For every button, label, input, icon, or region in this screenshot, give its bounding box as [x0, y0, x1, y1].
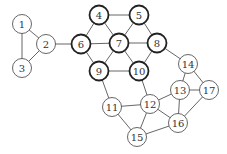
node-label: 4 [96, 10, 102, 21]
node-5: 5 [130, 6, 149, 25]
node-label: 17 [203, 85, 216, 96]
node-3: 3 [13, 59, 32, 78]
node-label: 1 [19, 19, 25, 30]
node-label: 14 [182, 59, 195, 70]
nodes-layer: 1234567891011121314151617 [13, 6, 219, 147]
node-label: 3 [19, 63, 25, 74]
node-label: 15 [131, 132, 144, 143]
node-label: 11 [106, 102, 119, 113]
node-12: 12 [141, 95, 160, 114]
node-label: 12 [144, 99, 157, 110]
node-17: 17 [200, 81, 219, 100]
graph-diagram: 1234567891011121314151617 [0, 0, 227, 154]
node-label: 2 [43, 39, 49, 50]
node-label: 7 [116, 38, 122, 49]
node-6: 6 [72, 35, 91, 54]
node-1: 1 [13, 15, 32, 34]
node-label: 8 [154, 38, 160, 49]
node-8: 8 [148, 34, 167, 53]
node-13: 13 [171, 81, 190, 100]
node-10: 10 [130, 62, 149, 81]
node-7: 7 [110, 34, 129, 53]
node-label: 9 [96, 66, 102, 77]
node-9: 9 [90, 62, 109, 81]
node-14: 14 [179, 55, 198, 74]
node-2: 2 [37, 35, 56, 54]
node-15: 15 [128, 128, 147, 147]
node-label: 13 [174, 85, 187, 96]
node-label: 5 [136, 10, 142, 21]
node-11: 11 [103, 98, 122, 117]
node-4: 4 [90, 6, 109, 25]
node-label: 10 [133, 66, 146, 77]
node-16: 16 [169, 114, 188, 133]
node-label: 6 [78, 39, 84, 50]
node-label: 16 [172, 118, 185, 129]
